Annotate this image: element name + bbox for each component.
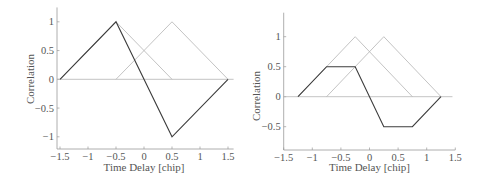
- y-tick-label: 0.5: [41, 45, 54, 56]
- x-axis-label: Time Delay [chip]: [104, 161, 185, 173]
- y-tick-label: 1: [275, 31, 280, 42]
- x-tick-label: −1.5: [50, 151, 69, 162]
- y-tick-label: −0.5: [35, 103, 54, 114]
- y-axis-label: Correlation: [24, 53, 36, 104]
- y-axis-label: Correlation: [250, 70, 262, 121]
- plot-area: −1.5−1−0.500.511.5−1−0.500.51: [35, 7, 235, 162]
- x-tick-label: 1.5: [221, 151, 234, 162]
- y-tick-label: −0.5: [262, 121, 281, 132]
- y-tick-label: 0: [275, 91, 280, 102]
- chart-left-svg: −1.5−1−0.500.511.5−1−0.500.51 Time Delay…: [0, 0, 242, 179]
- y-tick-label: 0: [49, 74, 54, 85]
- y-tick-label: −1: [43, 131, 54, 142]
- chart-right-svg: −1.5−1−0.500.511.5−0.500.51 Time Delay […: [242, 0, 484, 179]
- series-line: [116, 22, 228, 80]
- y-tick-label: 0.5: [268, 61, 281, 72]
- series-line: [60, 22, 172, 80]
- x-tick-label: 1: [197, 151, 202, 162]
- x-axis-label: Time Delay [chip]: [329, 161, 410, 173]
- plot-area: −1.5−1−0.500.511.5−0.500.51: [262, 13, 462, 163]
- chart-left: −1.5−1−0.500.511.5−1−0.500.51 Time Delay…: [0, 0, 242, 179]
- x-tick-label: 1.5: [449, 152, 462, 163]
- y-tick-label: 1: [49, 16, 54, 27]
- chart-right: −1.5−1−0.500.511.5−0.500.51 Time Delay […: [242, 0, 484, 179]
- x-tick-label: −1: [82, 151, 93, 162]
- x-tick-label: −1: [307, 152, 318, 163]
- x-tick-label: 1: [424, 152, 429, 163]
- x-tick-label: −1.5: [274, 152, 293, 163]
